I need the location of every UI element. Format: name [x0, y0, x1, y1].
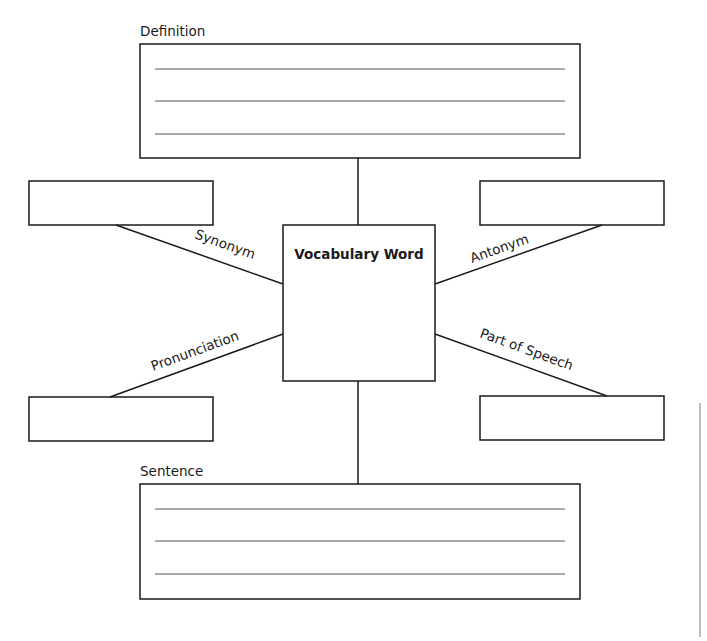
part-of-speech-box[interactable]	[480, 396, 664, 440]
pronunciation-box[interactable]	[29, 397, 213, 441]
synonym-label: Synonym	[193, 226, 258, 262]
part-of-speech-label: Part of Speech	[478, 325, 576, 374]
vocabulary-graphic-organizer: Definition Vocabulary Word Synonym Anton…	[0, 0, 707, 641]
synonym-box[interactable]	[29, 181, 213, 225]
antonym-label: Antonym	[468, 230, 531, 265]
antonym-box[interactable]	[480, 181, 664, 225]
sentence-label: Sentence	[140, 463, 203, 479]
definition-box[interactable]	[140, 44, 580, 158]
vocabulary-word-label: Vocabulary Word	[294, 246, 423, 262]
sentence-box[interactable]	[140, 484, 580, 599]
definition-label: Definition	[140, 23, 205, 39]
vocabulary-word-box[interactable]: Vocabulary Word	[283, 225, 435, 381]
